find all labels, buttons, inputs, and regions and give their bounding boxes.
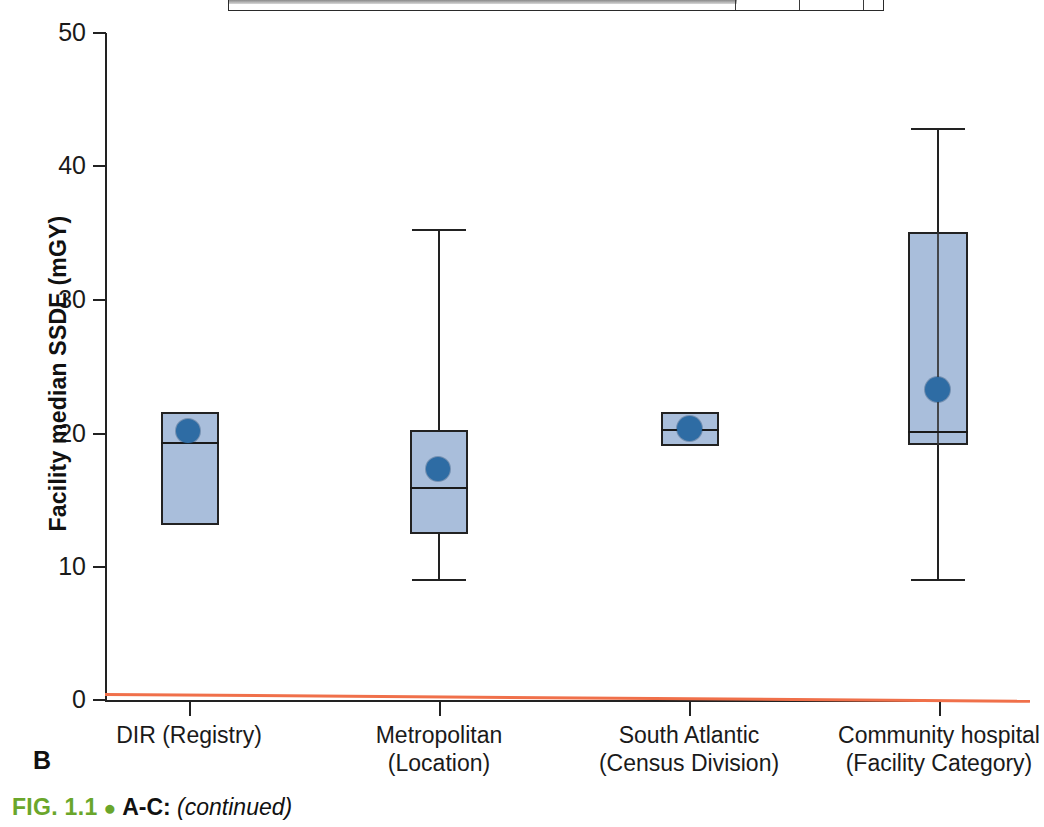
x-tick-community-hospital (939, 702, 941, 716)
y-axis-title: Facility median SSDE (mGY) (45, 164, 72, 584)
x-label-community-hospital: Community hospital (Facility Category) (814, 722, 1044, 777)
lower-whisker-cap-metropolitan (412, 579, 466, 581)
mean-dot-dir-registry (176, 419, 200, 443)
lower-whisker-metropolitan (438, 533, 440, 580)
mean-dot-metropolitan (426, 457, 450, 481)
upper-whisker-metropolitan (438, 229, 440, 431)
upper-whisker-cap-community-hospital (911, 128, 965, 130)
caption-panels: A-C: (122, 794, 171, 820)
x-label-south-atlantic: South Atlantic (Census Division) (564, 722, 814, 777)
x-label-dir-registry: DIR (Registry) (64, 722, 314, 750)
y-tick-50 (93, 32, 106, 34)
caption-bullet-icon: ● (97, 796, 122, 819)
x-label-south-atlantic-line2: (Census Division) (564, 750, 814, 778)
mean-dot-community-hospital (925, 377, 950, 402)
figure-panel-b: 50 40 30 20 10 0 Facility median SSDE (m… (0, 0, 1044, 827)
x-label-south-atlantic-line1: South Atlantic (564, 722, 814, 750)
x-label-dir-registry-line1: DIR (Registry) (64, 722, 314, 750)
box-plot-canvas: 50 40 30 20 10 0 Facility median SSDE (m… (0, 0, 1044, 827)
y-tick-0 (93, 699, 106, 701)
box-metropolitan (410, 430, 468, 534)
x-tick-south-atlantic (689, 702, 691, 716)
mean-dot-south-atlantic (677, 416, 702, 441)
upper-whisker-community-hospital (937, 128, 939, 233)
x-label-community-hospital-line1: Community hospital (814, 722, 1044, 750)
y-tick-label-50: 50 (36, 20, 86, 45)
y-axis-line (105, 33, 107, 702)
x-label-metropolitan-line2: (Location) (314, 750, 564, 778)
x-tick-metropolitan (439, 702, 441, 716)
lower-whisker-cap-community-hospital (911, 579, 965, 581)
median-line-metropolitan (410, 487, 468, 489)
y-tick-30 (93, 299, 106, 301)
figure-caption: FIG. 1.1●A-C: (continued) (12, 795, 292, 820)
panel-letter-b: B (33, 746, 51, 775)
y-tick-20 (93, 433, 106, 435)
upper-whisker-cap-metropolitan (412, 229, 466, 231)
lower-whisker-community-hospital (937, 445, 939, 580)
x-tick-dir-registry (189, 702, 191, 716)
x-label-metropolitan-line1: Metropolitan (314, 722, 564, 750)
median-line-community-hospital (908, 431, 968, 433)
figure-number: FIG. 1.1 (12, 794, 97, 820)
box-center-line-community-hospital (937, 232, 939, 445)
x-label-metropolitan: Metropolitan (Location) (314, 722, 564, 777)
x-label-community-hospital-line2: (Facility Category) (814, 750, 1044, 778)
caption-continued: (continued) (177, 794, 292, 820)
y-tick-label-0: 0 (36, 687, 86, 712)
y-tick-10 (93, 566, 106, 568)
y-tick-40 (93, 165, 106, 167)
